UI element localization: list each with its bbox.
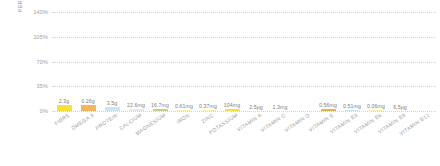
y-axis-tick: 70% [37,59,48,65]
y-axis-title: PERCENTAGE OF RDA [14,0,26,26]
bar-slot: 6.5µg [388,12,412,111]
bar-slot [412,12,436,111]
bar-slot [292,12,316,111]
bar-value-label: 6.5µg [393,104,407,110]
bar-slot: 2.3g [52,12,76,111]
bar-value-label: 2.5µg [249,104,263,110]
bar-value-label: 3.5g [107,100,118,106]
y-axis-tick: 35% [37,83,48,89]
bar-value-label: 0.56mg [319,102,337,108]
y-axis-tick: 105% [33,34,48,40]
bar-slot: 3.5g [100,12,124,111]
bar-slot: 0.51mg [340,12,364,111]
bar-value-label: 104mg [224,102,240,108]
bar-value-label: 0.26g [81,98,94,104]
bar-slot: 104mg [220,12,244,111]
bar-slot: 0.61mg [172,12,196,111]
bar-slot: 0.26g [76,12,100,111]
bar-value-label: 22.6mg [127,102,145,108]
bar-slot: 0.37mg [196,12,220,111]
bar-value-label: 0.37mg [199,103,217,109]
bar-value-label: 16.7mg [151,102,169,108]
bar-value-label: 0.61mg [175,103,193,109]
bar-slot: 0.06mg [364,12,388,111]
bar-slot: 16.7mg [148,12,172,111]
bar-slot: 0.56mg [316,12,340,111]
bar-slot: 22.6mg [124,12,148,111]
y-axis-tick: 140% [33,9,48,15]
bar-value-label: 0.51mg [343,103,361,109]
x-axis-tick-labels: FIBREOMEGA 3PROTEINCALCIUMMAGNESIUMIRONZ… [52,111,436,166]
bar-slot: 1.3mg [268,12,292,111]
rda-bar-chart: PERCENTAGE OF RDA 0%35%70%105%140% 2.3g0… [0,0,440,166]
bar-series: 2.3g0.26g3.5g22.6mg16.7mg0.61mg0.37mg104… [52,12,436,111]
bar-value-label: 1.3mg [273,104,288,110]
bar-value-label: 0.06mg [367,103,385,109]
bar-slot: 2.5µg [244,12,268,111]
bar-value-label: 2.3g [59,98,70,104]
y-axis-tick: 0% [40,108,48,114]
plot-area: 0%35%70%105%140% 2.3g0.26g3.5g22.6mg16.7… [52,12,436,111]
